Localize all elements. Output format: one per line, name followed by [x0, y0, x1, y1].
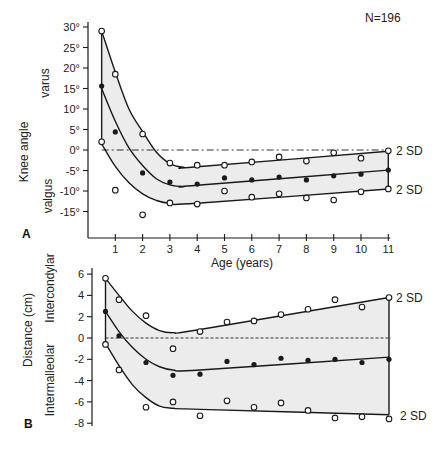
sd-data-point: [194, 201, 200, 207]
sd-data-point: [143, 404, 149, 410]
sd-data-point: [278, 400, 284, 406]
two-sd-band: [102, 31, 389, 204]
mean-data-point: [386, 167, 391, 172]
mean-data-point: [386, 357, 391, 362]
sd-data-point: [224, 319, 230, 325]
sd-data-point: [222, 162, 228, 168]
sd-data-point: [194, 162, 200, 168]
sd-data-point: [276, 154, 282, 160]
knee-angle-distance-figure: 30°25°20°15°10°5°0°-5°-10°-15°1234567891…: [0, 0, 444, 449]
sd-data-point: [103, 342, 109, 348]
sd-data-point: [251, 318, 257, 324]
y-tick-label: 5°: [69, 124, 80, 136]
y-tick-label: -5°: [66, 165, 80, 177]
y-tick-label: 0°: [69, 144, 80, 156]
x-tick-label: 8: [303, 243, 309, 255]
mean-data-point: [195, 181, 200, 186]
lower-2sd-label: 2 SD: [396, 183, 423, 197]
x-tick-label: 7: [276, 243, 282, 255]
x-tick-label: 1: [112, 243, 118, 255]
y-tick-label: -15°: [60, 206, 80, 218]
sd-data-point: [251, 404, 257, 410]
x-tick-label: 9: [331, 243, 337, 255]
mean-data-point: [170, 373, 175, 378]
mean-data-point: [359, 360, 364, 365]
sd-data-point: [358, 189, 364, 195]
mean-data-point: [305, 358, 310, 363]
y-tick-label: -8: [74, 417, 84, 429]
mean-data-point: [277, 174, 282, 179]
mean-data-point: [332, 357, 337, 362]
sd-data-point: [278, 312, 284, 318]
sd-data-point: [140, 212, 146, 218]
sd-data-point: [386, 186, 392, 192]
sd-data-point: [276, 191, 282, 197]
sd-data-point: [305, 306, 311, 312]
mean-data-point: [224, 359, 229, 364]
mean-data-point: [331, 173, 336, 178]
sd-data-point: [167, 160, 173, 166]
sd-data-point: [304, 195, 310, 201]
sd-data-point: [359, 304, 365, 310]
sd-data-point: [167, 200, 173, 206]
x-tick-label: 11: [383, 243, 394, 255]
y-tick-label: 15°: [63, 83, 80, 95]
mean-data-point: [140, 170, 145, 175]
mean-data-point: [278, 356, 283, 361]
y-tick-label: -4: [74, 375, 84, 387]
mean-data-point: [249, 177, 254, 182]
sd-data-point: [304, 158, 310, 164]
sd-data-point: [99, 139, 105, 145]
two-sd-band: [106, 278, 390, 414]
sd-data-point: [331, 197, 337, 203]
y-axis-label-distance: Distance (cm): [21, 293, 35, 367]
y-tick-label: 30°: [63, 21, 80, 33]
y-tick-label: 25°: [63, 42, 80, 54]
y-tick-label: 20°: [63, 62, 80, 74]
sd-data-point: [386, 416, 392, 422]
mean-data-point: [222, 175, 227, 180]
mean-data-point: [143, 360, 148, 365]
y-tick-label: -6: [74, 396, 84, 408]
panel-label-a: A: [22, 227, 31, 241]
x-tick-label: 3: [167, 243, 173, 255]
x-tick-label: 6: [249, 243, 255, 255]
sd-data-point: [224, 398, 230, 404]
sd-data-point: [113, 187, 119, 193]
sd-data-point: [197, 413, 203, 419]
upper-2sd-label: 2 SD: [396, 291, 423, 305]
sd-data-point: [358, 155, 364, 161]
y-tick-label: -10°: [60, 185, 80, 197]
y-tick-label: -2: [74, 353, 84, 365]
x-tick-label: 2: [140, 243, 146, 255]
sd-data-point: [99, 28, 105, 34]
panel-a-knee-angle-chart: 30°25°20°15°10°5°0°-5°-10°-15°1234567891…: [17, 11, 423, 270]
mean-data-point: [113, 129, 118, 134]
mean-data-point: [167, 179, 172, 184]
sd-data-point: [197, 329, 203, 335]
panel-label-b: B: [24, 417, 33, 431]
upper-2sd-label: 2 SD: [396, 144, 423, 158]
y-tick-label: 4: [78, 289, 84, 301]
y-axis-label-knee-angle: Knee angle: [17, 121, 31, 182]
sd-data-point: [305, 408, 311, 414]
sd-data-point: [116, 367, 122, 373]
mean-data-point: [304, 177, 309, 182]
sd-data-point: [331, 150, 337, 156]
x-tick-label: 10: [355, 243, 367, 255]
mean-data-point: [197, 372, 202, 377]
sd-data-point: [170, 399, 176, 405]
x-tick-label: 5: [221, 243, 227, 255]
y-tick-label: 2: [78, 311, 84, 323]
mean-data-point: [103, 309, 108, 314]
mean-data-point: [358, 172, 363, 177]
sample-size-label: N=196: [365, 11, 401, 25]
mean-data-point: [251, 362, 256, 367]
sd-data-point: [332, 297, 338, 303]
sd-data-point: [103, 276, 109, 282]
y-tick-label: 6: [78, 268, 84, 280]
sd-data-point: [140, 131, 146, 137]
sd-data-point: [116, 297, 122, 303]
sd-data-point: [332, 415, 338, 421]
x-tick-label: 4: [194, 243, 200, 255]
